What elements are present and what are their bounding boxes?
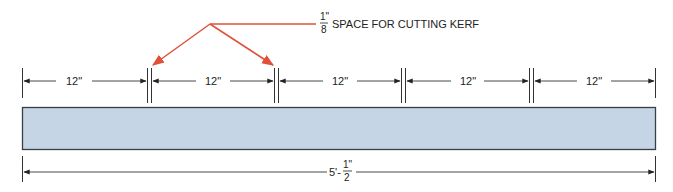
segment-label: 12" <box>586 75 602 87</box>
segment-label: 12" <box>66 75 82 87</box>
total-fraction-numerator: 1" <box>343 159 353 170</box>
kerf-diagram: 1" 8 SPACE FOR CUTTING KERF 12" 12" 12" … <box>0 0 673 192</box>
note-text: SPACE FOR CUTTING KERF <box>332 18 479 30</box>
note-fraction-denominator: 8 <box>321 24 327 35</box>
note-fraction-numerator: 1" <box>320 11 330 22</box>
segment-label: 12" <box>332 75 348 87</box>
segment-label: 12" <box>460 75 476 87</box>
total-fraction-denominator: 2 <box>344 172 350 183</box>
total-label: 5'- 1" 2 <box>329 159 353 183</box>
total-whole: 5'- <box>329 166 341 178</box>
kerf-leader <box>153 24 316 65</box>
kerf-note: 1" 8 SPACE FOR CUTTING KERF <box>320 11 479 35</box>
segment-label: 12" <box>205 75 221 87</box>
board <box>23 108 656 150</box>
